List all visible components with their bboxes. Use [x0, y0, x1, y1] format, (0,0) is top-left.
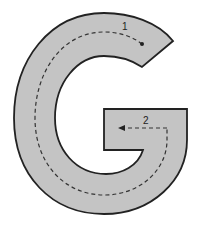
- stroke-1-start-dot: [140, 42, 144, 46]
- letter-g-stroke-diagram: 1 2: [0, 0, 201, 234]
- stroke-2-number: 2: [143, 115, 149, 126]
- stroke-1-number: 1: [122, 21, 128, 32]
- letter-g-shape: [14, 13, 187, 214]
